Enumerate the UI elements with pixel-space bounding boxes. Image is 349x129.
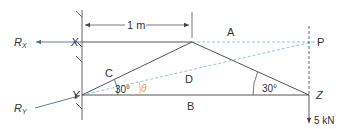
angle-theta-label: θ [141, 83, 147, 94]
member-B-label: B [187, 100, 194, 112]
dimension-1m: 1 m [85, 12, 192, 38]
angle-z-label: 30° [262, 83, 277, 94]
node-P-label: P [317, 36, 324, 48]
member-C [82, 42, 192, 95]
wall [76, 10, 82, 120]
angle-y-label: 30° [115, 84, 130, 95]
load-label: 5 kN [314, 115, 335, 126]
member-A-label: A [227, 26, 235, 38]
node-Z-label: Z [315, 89, 324, 101]
angle-arc-z [253, 72, 258, 95]
member-D-label: D [185, 73, 193, 85]
reaction-ry: RY [14, 96, 80, 115]
dimension-label: 1 m [127, 19, 145, 31]
node-X-label: X [70, 36, 79, 48]
node-Y-label: Y [72, 89, 80, 101]
member-C-label: C [105, 67, 113, 79]
member-D [192, 42, 309, 95]
rx-label: RX [14, 36, 27, 49]
frame-diagram: 1 m RX RY 5 kN X Y Z P A B C D 30° θ [0, 0, 349, 129]
ry-label: RY [14, 102, 28, 115]
